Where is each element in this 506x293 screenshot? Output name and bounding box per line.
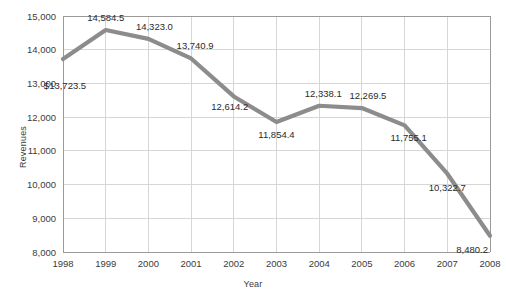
data-point-label: 12,614.2 [211,101,248,112]
data-point-label: 11,755.1 [390,132,426,143]
x-tick-label: 2006 [394,258,415,269]
y-tick-label: 10,000 [27,179,56,190]
data-point-label: 11,854.4 [258,129,294,140]
y-tick-label: 9,000 [32,213,56,224]
y-tick-label: 15,000 [27,11,56,22]
y-tick-label: 8,000 [32,247,56,258]
revenues-line-chart: Revenues Year 8,0009,00010,00011,00012,0… [0,0,506,293]
x-tick-label: 2003 [266,258,287,269]
x-tick-label: 1998 [52,258,73,269]
y-axis-tick-labels: 8,0009,00010,00011,00012,00013,00014,000… [27,11,56,258]
y-tick-label: 11,000 [28,145,56,156]
x-tick-label: 1999 [95,258,116,269]
data-point-label: 14,584.5 [87,12,124,23]
chart-canvas: 8,0009,00010,00011,00012,00013,00014,000… [0,0,506,293]
y-tick-label: 14,000 [27,44,56,55]
data-point-label: 10,322.7 [429,182,466,193]
y-tick-label: 12,000 [27,112,56,123]
data-point-label: 14,323.0 [136,21,173,32]
x-tick-label: 2007 [437,258,458,269]
x-tick-label: 2001 [181,258,202,269]
data-point-label: 13,740.9 [177,40,214,51]
data-point-label: $13,723.5 [44,80,86,91]
x-tick-label: 2000 [138,258,159,269]
x-axis-tick-labels: 1998199920002001200220032004200520062007… [52,258,500,269]
x-tick-label: 2004 [309,258,330,269]
data-point-label: 12,338.1 [305,88,342,99]
data-point-label: 12,269.5 [349,90,386,101]
x-tick-label: 2008 [479,258,500,269]
x-tick-label: 2005 [351,258,372,269]
x-tick-label: 2002 [223,258,244,269]
data-point-label: 8,480.2 [456,244,488,255]
